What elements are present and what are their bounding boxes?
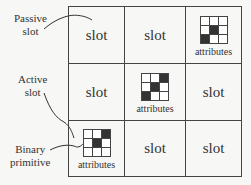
primitive-cell-off — [102, 148, 110, 156]
callout-passive-slot: Passive slot — [14, 12, 47, 38]
primitive-cell-off — [160, 92, 168, 100]
primitive-cell-off — [84, 130, 92, 138]
grid-cell-r3c3: slot — [186, 121, 241, 176]
binary-primitive-grid — [141, 73, 169, 101]
callout-binary-primitive: Binary primitive — [10, 143, 50, 169]
callout-passive-line2: slot — [14, 25, 47, 38]
primitive-cell-on — [142, 92, 150, 100]
grid-cell-r2c1: slot — [69, 64, 125, 121]
primitive-cell-on — [160, 74, 168, 82]
primitive-cell-off — [210, 17, 218, 25]
callout-binary-line2: primitive — [10, 156, 50, 169]
primitive-cell-off — [201, 26, 209, 34]
primitive-cell-off — [201, 17, 209, 25]
grid-cell-r2c3: slot — [186, 64, 241, 121]
callout-active-line1: Active — [18, 73, 47, 86]
primitive-cell-off — [219, 17, 227, 25]
callout-active-slot: Active slot — [18, 73, 47, 99]
primitive-cell-on — [210, 26, 218, 34]
binary-primitive-grid — [200, 16, 228, 44]
slot-label: slot — [86, 84, 108, 101]
grid-cell-r3c2: slot — [125, 121, 186, 176]
slot-label: slot — [144, 140, 166, 157]
primitive-cell-off — [102, 139, 110, 147]
primitive-cell-on — [93, 139, 101, 147]
grid-cell-r1c1: slot — [69, 7, 125, 64]
attributes-label: attributes — [78, 159, 115, 170]
slot-label: slot — [203, 84, 225, 101]
primitive-cell-off — [151, 92, 159, 100]
callout-binary-line1: Binary — [10, 143, 50, 156]
slot-label: slot — [203, 140, 225, 157]
slot-grid: slot slot attributes slot attributes slo… — [68, 6, 242, 177]
attributes-label: attributes — [136, 103, 173, 114]
primitive-cell-off — [210, 35, 218, 43]
grid-cell-r2c2: attributes — [125, 64, 186, 121]
primitive-cell-off — [84, 148, 92, 156]
primitive-cell-on — [201, 35, 209, 43]
primitive-cell-off — [219, 35, 227, 43]
callout-active-line2: slot — [18, 86, 47, 99]
primitive-cell-on — [102, 130, 110, 138]
binary-primitive-grid — [83, 129, 111, 157]
primitive-cell-off — [84, 139, 92, 147]
slot-label: slot — [86, 27, 108, 44]
primitive-cell-off — [151, 74, 159, 82]
slot-label: slot — [144, 27, 166, 44]
primitive-cell-off — [142, 83, 150, 91]
primitive-cell-off — [160, 83, 168, 91]
primitive-cell-off — [93, 130, 101, 138]
callout-passive-line1: Passive — [14, 12, 47, 25]
attributes-label: attributes — [195, 46, 232, 57]
primitive-cell-off — [93, 148, 101, 156]
grid-cell-r1c2: slot — [125, 7, 186, 64]
primitive-cell-off — [142, 74, 150, 82]
primitive-cell-on — [151, 83, 159, 91]
primitive-cell-off — [219, 26, 227, 34]
grid-cell-r1c3: attributes — [186, 7, 241, 64]
grid-cell-r3c1: attributes — [69, 121, 125, 176]
